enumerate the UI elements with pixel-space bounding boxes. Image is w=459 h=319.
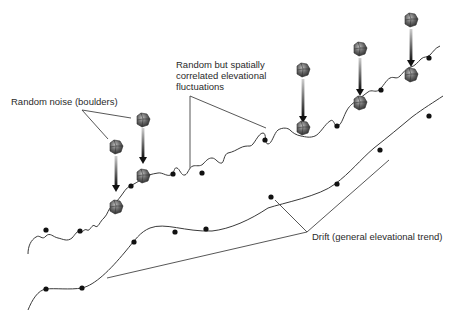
boulder-icon (137, 169, 150, 183)
drift-curve (28, 96, 443, 310)
noise-leader-lines (82, 110, 131, 139)
boulder-icon (137, 113, 150, 127)
elevation-components-diagram (0, 0, 459, 319)
boulder-icon (110, 140, 123, 154)
boulder-icon (110, 200, 123, 214)
boulder-icon (405, 13, 418, 27)
correlated-label-line1: Random but spatially (176, 59, 266, 70)
noise-label: Random noise (boulders) (11, 96, 118, 107)
drift-trend-line-upper (307, 160, 389, 232)
boulder-icon (354, 96, 367, 110)
boulder-icon (297, 63, 310, 77)
drift-leader-line (275, 200, 307, 232)
drift-trend-line (107, 232, 307, 278)
boulder-group (110, 13, 418, 214)
drift-curve-sample-points (43, 113, 431, 291)
correlated-label-line2: correlated elevational (176, 70, 266, 81)
correlated-label-line3: fluctuations (176, 81, 266, 92)
boulder-icon (354, 42, 367, 56)
boulder-icon (405, 68, 418, 82)
fluctuation-leader-lines (190, 96, 266, 168)
correlated-fluctuations-label: Random but spatially correlated elevatio… (176, 59, 266, 92)
boulder-icon (297, 121, 310, 135)
drift-label: Drift (general elevational trend) (312, 231, 442, 242)
